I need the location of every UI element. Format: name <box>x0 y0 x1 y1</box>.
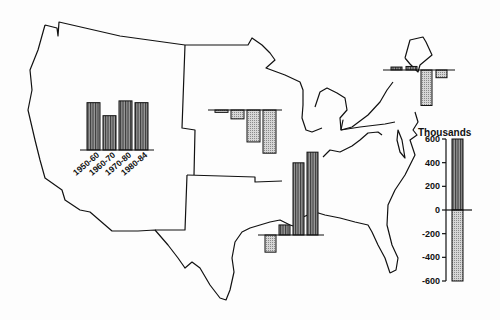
scale-tick-label: 200 <box>425 181 440 191</box>
bar-chart-midwest <box>208 110 282 153</box>
bar-south-1950-60 <box>265 235 276 252</box>
migration-map-chart: 1950-601960-701970-801980-84 Thousands 6… <box>0 0 500 320</box>
bar-midwest-1960-70 <box>231 110 244 119</box>
bar-midwest-1970-80 <box>247 110 260 142</box>
chesapeake-bay <box>397 130 405 158</box>
divider-west-south <box>155 175 187 230</box>
scale-tick-label: -400 <box>422 252 440 262</box>
bar-chart-west: 1950-601960-701970-801980-84 <box>71 101 154 178</box>
bar-northeast-1970-80 <box>421 70 432 106</box>
bar-west-1960-70 <box>103 116 116 150</box>
bar-chart-northeast <box>383 66 455 105</box>
bar-south-1980-84 <box>307 152 318 235</box>
scale-tick-label: 400 <box>425 158 440 168</box>
divider-midwest-south <box>187 175 282 182</box>
bar-south-1960-70 <box>279 225 290 235</box>
scale-bar-positive <box>452 139 463 210</box>
bar-midwest-1980-84 <box>263 110 276 153</box>
divider-west-midwest <box>182 45 195 175</box>
bar-west-1950-60 <box>87 103 100 150</box>
bar-chart-south <box>258 152 324 252</box>
scale-bar-negative <box>452 210 463 281</box>
map-svg: 1950-601960-701970-801980-84 Thousands 6… <box>0 0 500 320</box>
scale-tick-label: -200 <box>422 229 440 239</box>
scale-tick-label: -600 <box>422 276 440 286</box>
bar-west-1970-80 <box>119 101 132 150</box>
divider-northeast-south <box>341 120 395 130</box>
bar-northeast-1980-84 <box>436 70 447 78</box>
bar-west-1980-84 <box>135 103 148 150</box>
scale-tick-label: 0 <box>435 205 440 215</box>
divider-ohio-river <box>323 132 382 157</box>
bar-south-1970-80 <box>293 163 304 235</box>
scale-legend: Thousands 6004002000-200-400-600 <box>418 127 472 286</box>
scale-tick-label: 600 <box>425 134 440 144</box>
